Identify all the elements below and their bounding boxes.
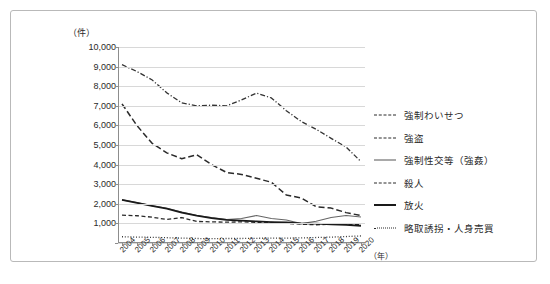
gridline [118, 86, 365, 87]
y-axis-tick-label: 8,000 [93, 81, 116, 91]
legend-item-label: 略取誘拐・人身売買 [404, 221, 494, 235]
y-axis-tickmark [115, 67, 118, 68]
y-axis-line [118, 47, 119, 243]
chart-container: （件） 10,0009,0008,0007,0006,0005,0004,000… [0, 0, 550, 284]
y-axis-tick-label: 10,000 [88, 42, 116, 52]
y-axis-tickmark [115, 47, 118, 48]
y-axis-tick-label: 1,000 [93, 218, 116, 228]
y-axis-tick-label: 3,000 [93, 179, 116, 189]
y-axis-tick-label: 7,000 [93, 101, 116, 111]
legend-item-label: 強盗 [404, 131, 424, 145]
legend-item[interactable]: 強制性交等（強姦） [374, 149, 534, 172]
legend-item-label: 強制わいせつ [404, 108, 464, 122]
y-axis-tickmark [115, 145, 118, 146]
y-axis-tickmark [115, 106, 118, 107]
legend-swatch-icon [374, 133, 396, 143]
y-axis-tickmark [115, 165, 118, 166]
legend-item[interactable]: 強制わいせつ [374, 104, 534, 127]
x-axis-unit-label: （年） [369, 250, 393, 261]
y-axis-tick-labels: 10,0009,0008,0007,0006,0005,0004,0003,00… [58, 40, 116, 248]
gridline [118, 106, 365, 107]
y-axis-tickmark [115, 184, 118, 185]
legend-item[interactable]: 略取誘拐・人身売買 [374, 217, 534, 240]
legend-item-label: 殺人 [404, 176, 424, 190]
legend-item[interactable]: 殺人 [374, 172, 534, 195]
legend-item-label: 放火 [404, 198, 424, 212]
chart-legend: 強制わいせつ強盗強制性交等（強姦）殺人放火略取誘拐・人身売買 [374, 104, 534, 239]
gridline [118, 204, 365, 205]
gridline [118, 145, 365, 146]
y-axis-unit-label: （件） [68, 26, 95, 39]
gridline [118, 184, 365, 185]
y-axis-tickmark [115, 86, 118, 87]
series-line [122, 104, 361, 216]
legend-swatch-icon [374, 178, 396, 188]
legend-swatch-icon [374, 223, 396, 233]
gridline [118, 67, 365, 68]
gridline [118, 47, 365, 48]
legend-item[interactable]: 放火 [374, 194, 534, 217]
legend-item[interactable]: 強盗 [374, 127, 534, 150]
legend-swatch-icon [374, 110, 396, 120]
gridline [118, 165, 365, 166]
legend-swatch-icon [374, 155, 396, 165]
y-axis-tick-label: 5,000 [93, 140, 116, 150]
plot-area [118, 47, 365, 243]
gridline [118, 223, 365, 224]
y-axis-tickmark [115, 243, 118, 244]
legend-item-label: 強制性交等（強姦） [404, 153, 494, 167]
y-axis-tick-label: 2,000 [93, 199, 116, 209]
y-axis-tick-label: 6,000 [93, 120, 116, 130]
gridline [118, 125, 365, 126]
y-axis-tickmark [115, 125, 118, 126]
y-axis-tickmark [115, 223, 118, 224]
x-axis-tick-labels: 2004200520062007200820092010201120122013… [118, 246, 365, 276]
y-axis-tick-label: 4,000 [93, 160, 116, 170]
legend-swatch-icon [374, 200, 396, 210]
y-axis-tickmark [115, 204, 118, 205]
y-axis-tick-label: 9,000 [93, 62, 116, 72]
